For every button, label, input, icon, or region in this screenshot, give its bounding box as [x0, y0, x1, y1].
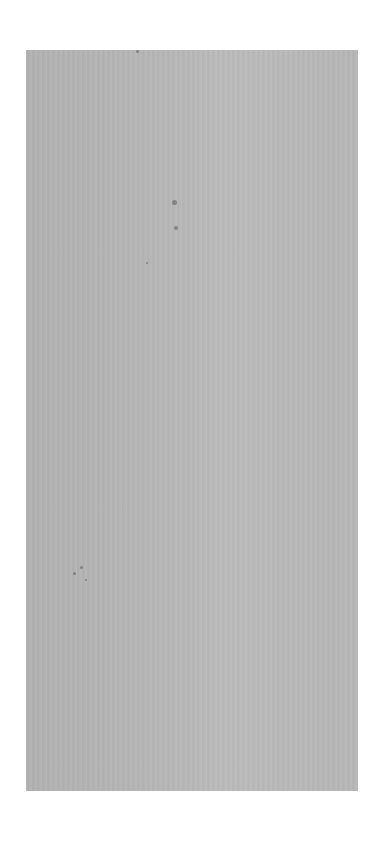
dust-speck: [146, 262, 148, 264]
dust-speck: [172, 200, 177, 205]
gray-sheet: [26, 50, 358, 791]
dust-speck: [85, 579, 87, 581]
dust-speck: [136, 50, 139, 53]
dust-speck: [73, 572, 76, 575]
dust-speck: [80, 566, 83, 569]
dust-speck: [174, 226, 178, 230]
